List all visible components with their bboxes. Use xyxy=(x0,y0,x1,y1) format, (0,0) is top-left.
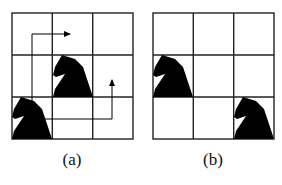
knight-icon xyxy=(234,97,274,139)
knight-icon xyxy=(153,55,193,97)
panel-a-label: (a) xyxy=(42,150,102,170)
panel-b xyxy=(153,13,274,139)
panel-a xyxy=(12,13,133,139)
knight-icon xyxy=(53,55,93,97)
panel-b-label: (b) xyxy=(183,150,243,170)
